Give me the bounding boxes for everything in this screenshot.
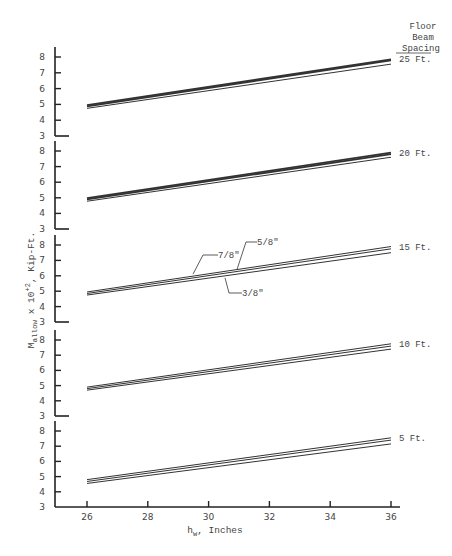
series-line [87,438,391,480]
series-line [87,444,391,484]
y-tick-label: 3 [39,131,45,141]
series-line [87,64,391,108]
y-tick-label: 6 [39,271,45,281]
y-tick-label: 5 [39,381,45,391]
chart-panels: 34567825 Ft.34567820 Ft.34567815 Ft.7/8"… [39,47,431,512]
y-tick-label: 8 [39,52,45,62]
y-tick-label: 4 [39,115,45,125]
y-tick-label: 7 [39,68,45,78]
panel-5ft: 3456785 Ft. [39,421,426,512]
svg-text:3/8": 3/8" [242,289,264,299]
x-tick-label: 34 [324,512,336,522]
x-axis-label: hw, Inches [187,525,243,538]
beam-moment-chart: FloorBeamSpacing 34567825 Ft.34567820 Ft… [0,0,452,556]
svg-text:5/8": 5/8" [257,238,279,248]
x-tick-label: 28 [142,512,154,522]
series-line [87,60,391,106]
y-tick-label: 3 [39,224,45,234]
panel-label: 20 Ft. [399,149,431,159]
thickness-annotations: 7/8"5/8"3/8" [193,238,279,299]
series-line [87,349,391,390]
y-tick-label: 3 [39,317,45,327]
y-tick-label: 5 [39,99,45,109]
y-tick-label: 3 [39,502,45,512]
y-tick-label: 8 [39,240,45,250]
y-tick-label: 4 [39,208,45,218]
legend-header-line: Floor [409,22,436,32]
y-tick-label: 5 [39,472,45,482]
series-line [87,153,391,199]
y-tick-label: 5 [39,193,45,203]
legend-header-line: Spacing [402,44,440,54]
y-tick-label: 5 [39,286,45,296]
x-tick-label: 30 [203,512,215,522]
y-tick-label: 8 [39,426,45,436]
series-line [87,346,391,389]
y-tick-label: 3 [39,411,45,421]
x-axis: 262830323436 [81,501,397,522]
x-tick-label: 36 [385,512,397,522]
y-tick-label: 8 [39,146,45,156]
series-line [87,154,391,199]
y-tick-label: 4 [39,487,45,497]
series-line [87,344,391,387]
y-tick-label: 6 [39,365,45,375]
x-tick-label: 26 [81,512,93,522]
y-tick-label: 7 [39,350,45,360]
x-tick-label: 32 [264,512,275,522]
y-tick-label: 6 [39,456,45,466]
y-tick-label: 4 [39,302,45,312]
y-tick-label: 7 [39,255,45,265]
panel-20ft: 34567820 Ft. [39,141,431,234]
y-tick-label: 6 [39,84,45,94]
series-line [87,440,391,481]
panel-25ft: 34567825 Ft. [39,47,431,141]
panel-label: 5 Ft. [399,434,426,444]
svg-text:hw, Inches: hw, Inches [187,525,243,538]
svg-text:Mallow x 10+2, Kip-Ft.: Mallow x 10+2, Kip-Ft. [24,232,39,348]
panel-label: 15 Ft. [399,243,431,253]
series-line [87,59,391,105]
y-tick-label: 7 [39,441,45,451]
y-tick-label: 4 [39,396,45,406]
svg-text:7/8": 7/8" [218,251,240,261]
panel-15ft: 34567815 Ft.7/8"5/8"3/8" [39,235,431,327]
panel-label: 25 Ft. [399,55,431,65]
panel-label: 10 Ft. [399,340,431,350]
y-tick-label: 6 [39,177,45,187]
y-tick-label: 8 [39,335,45,345]
series-line [87,157,391,201]
y-tick-label: 7 [39,162,45,172]
panel-10ft: 34567810 Ft. [39,330,431,421]
y-axis-label: Mallow x 10+2, Kip-Ft. [24,232,39,348]
legend-header-line: Beam [412,33,434,43]
legend-header: FloorBeamSpacing [396,22,440,54]
